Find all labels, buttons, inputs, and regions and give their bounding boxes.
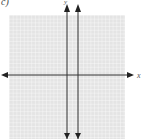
arrow-up-icon (75, 4, 81, 12)
x-axis-label: x (136, 71, 141, 80)
arrow-left-icon (1, 72, 8, 78)
coordinate-plane: x y (0, 0, 142, 139)
arrow-right-icon (127, 72, 134, 78)
